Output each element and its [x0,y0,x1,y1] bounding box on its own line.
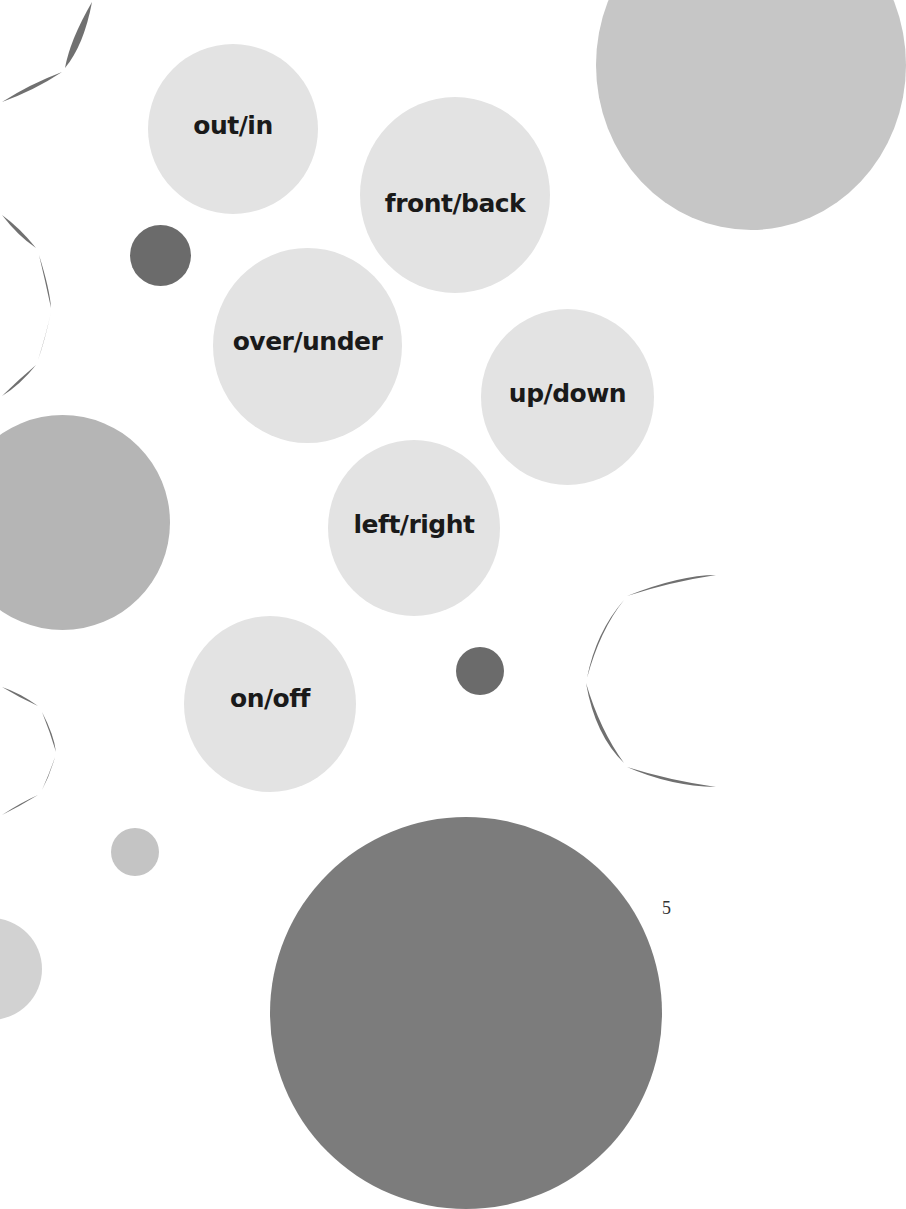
small-light-circle-bottom-left [111,828,159,876]
word-label: front/back [385,189,525,218]
word-circle-front-back: front/back [360,97,550,293]
word-label: out/in [193,111,272,140]
word-label: on/off [230,684,310,713]
word-label: up/down [509,379,626,408]
page-number: 5 [662,898,671,919]
word-circle-over-under: over/under [213,248,402,443]
word-circle-left-right: left/right [328,440,500,616]
small-dark-circle-right [456,647,504,695]
word-label: left/right [353,510,474,539]
small-dark-circle-left [130,225,191,286]
word-circle-on-off: on/off [184,616,356,792]
word-label: over/under [233,327,383,356]
word-circle-up-down: up/down [481,309,654,485]
word-circle-out-in: out/in [148,44,318,214]
large-circle-bottom [270,817,662,1209]
